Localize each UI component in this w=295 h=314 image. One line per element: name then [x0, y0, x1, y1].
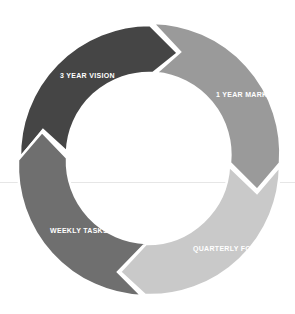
- cycle-ring: 3 YEAR VISION 1 YEAR MARKERS QUARTERLY F…: [0, 0, 295, 314]
- label-weekly-tasks: WEEKLY TASKS: [50, 227, 108, 234]
- label-quarterly-focus: QUARTERLY FOCUS: [193, 245, 267, 253]
- label-1-year-markers: 1 YEAR MARKERS: [216, 91, 283, 98]
- cycle-diagram: 3 YEAR VISION 1 YEAR MARKERS QUARTERLY F…: [0, 0, 295, 314]
- label-3-year-vision: 3 YEAR VISION: [60, 72, 115, 79]
